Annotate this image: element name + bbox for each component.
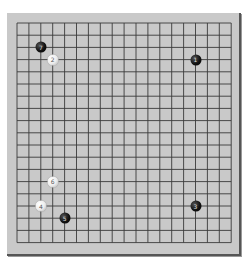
move-number: 5	[63, 215, 67, 221]
black-stone[interactable]: 3	[190, 201, 201, 212]
black-stone[interactable]: 1	[190, 54, 201, 65]
move-number: 7	[39, 44, 43, 50]
move-number: 6	[51, 179, 55, 185]
white-stone[interactable]: 6	[47, 176, 58, 187]
move-number: 1	[194, 57, 198, 63]
black-stone[interactable]: 7	[35, 42, 46, 53]
go-board[interactable]: 1234567	[7, 13, 241, 256]
move-number: 3	[194, 203, 198, 209]
white-stone[interactable]: 2	[47, 54, 58, 65]
move-number: 4	[39, 203, 43, 209]
move-number: 2	[51, 57, 55, 63]
black-stone[interactable]: 5	[59, 213, 70, 224]
white-stone[interactable]: 4	[35, 201, 46, 212]
